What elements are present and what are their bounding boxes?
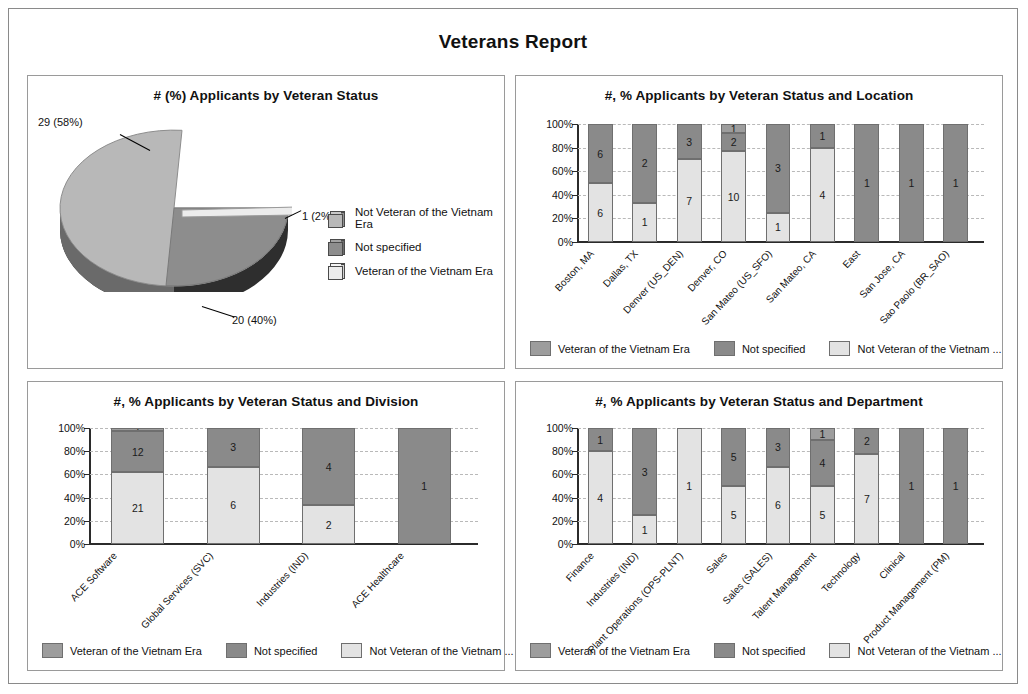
y-axis-tick-label: 60%	[552, 468, 573, 480]
bar-segment[interactable]: 1	[899, 124, 924, 242]
bar-column[interactable]: 24Industries (IND)	[302, 428, 355, 544]
legend-location: Veteran of the Vietnam EraNot specifiedN…	[530, 341, 1020, 356]
bar-segment[interactable]: 5	[721, 486, 746, 544]
bar-segment[interactable]: 1	[899, 428, 924, 544]
bar-segment[interactable]: 1	[766, 213, 791, 243]
bar-column[interactable]: 21121ACE Software	[111, 428, 164, 544]
bar-segment[interactable]: 6	[207, 467, 260, 544]
bar-column[interactable]: 55Sales	[721, 428, 746, 544]
bar-segment[interactable]: 6	[766, 467, 791, 544]
legend-label-veteran: Veteran of the Vietnam Era	[70, 645, 202, 657]
x-axis-tick-label: Dallas, TX	[601, 248, 640, 289]
bar-segment[interactable]: 5	[721, 428, 746, 486]
legend-item-not-specified[interactable]: Not specified	[226, 643, 318, 658]
bar-segment[interactable]: 1	[854, 124, 879, 242]
bar-segment[interactable]: 3	[207, 428, 260, 467]
bar-column[interactable]: 1021Denver, CO	[721, 124, 746, 242]
bar-segment[interactable]: 4	[810, 440, 835, 486]
plot-area-division[interactable]: 0%20%40%60%80%100%21121ACE Software63Glo…	[90, 428, 472, 544]
bar-segment[interactable]: 4	[810, 148, 835, 242]
y-axis-tick-label: 60%	[64, 468, 85, 480]
bar-segment[interactable]: 1	[943, 428, 968, 544]
bar-segment[interactable]: 6	[588, 183, 613, 242]
bar-segment[interactable]: 1	[632, 515, 657, 544]
bar-segment[interactable]: 3	[677, 124, 702, 159]
bar-column[interactable]: 72Technology	[854, 428, 879, 544]
bar-segment[interactable]: 1	[111, 428, 164, 431]
bar-segment[interactable]: 7	[677, 159, 702, 242]
legend-swatch-non-veteran	[829, 643, 850, 658]
bar-segment[interactable]: 4	[588, 451, 613, 544]
chart-title-pie: # (%) Applicants by Veteran Status	[28, 88, 504, 103]
bar-column[interactable]: 73Denver (US_DEN)	[677, 124, 702, 242]
bar-segment[interactable]: 1	[632, 203, 657, 242]
bar-segment[interactable]: 3	[766, 428, 791, 467]
bar-segment[interactable]: 1	[810, 428, 835, 440]
bar-segment[interactable]: 7	[854, 454, 879, 544]
bar-segment[interactable]: 5	[810, 486, 835, 544]
bar-segment[interactable]: 2	[302, 505, 355, 544]
bar-segment[interactable]: 6	[588, 124, 613, 183]
bar-segment[interactable]: 3	[766, 124, 791, 213]
y-axis	[577, 428, 579, 544]
y-axis-tick-label: 0%	[70, 538, 85, 550]
bar-segment[interactable]: 1	[721, 124, 746, 133]
legend-division: Veteran of the Vietnam EraNot specifiedN…	[42, 643, 532, 658]
bar-segment[interactable]: 1	[677, 428, 702, 544]
legend-swatch-cube-icon	[328, 239, 345, 254]
panel-applicants-by-department: #, % Applicants by Veteran Status and De…	[515, 381, 1003, 671]
legend-item-not-specified[interactable]: Not specified	[714, 643, 806, 658]
bar-column[interactable]: 41Finance	[588, 428, 613, 544]
bar-column[interactable]: 66Boston, MA	[588, 124, 613, 242]
bar-column[interactable]: 1Plant Operations (OPS-PLNT)	[677, 428, 702, 544]
bar-column[interactable]: 1Clinical	[899, 428, 924, 544]
bar-column[interactable]: 12Dallas, TX	[632, 124, 657, 242]
legend-swatch-not-specified	[226, 643, 247, 658]
bar-column[interactable]: 63Sales (SALES)	[766, 428, 791, 544]
pie-legend-item-veteran[interactable]: Veteran of the Vietnam Era	[328, 263, 504, 278]
plot-area-department[interactable]: 0%20%40%60%80%100%41Finance13Industries …	[578, 428, 978, 544]
legend-item-veteran[interactable]: Veteran of the Vietnam Era	[530, 643, 690, 658]
legend-department: Veteran of the Vietnam EraNot specifiedN…	[530, 643, 1020, 658]
bar-segment[interactable]: 1	[810, 124, 835, 148]
legend-item-veteran[interactable]: Veteran of the Vietnam Era	[42, 643, 202, 658]
bar-segment[interactable]: 2	[721, 133, 746, 151]
plot-area-location[interactable]: 0%20%40%60%80%100%66Boston, MA12Dallas, …	[578, 124, 978, 242]
legend-swatch-veteran	[530, 643, 551, 658]
bar-segment[interactable]: 10	[721, 151, 746, 242]
bar-column[interactable]: 1Sao Paolo (BR_SAO)	[943, 124, 968, 242]
legend-item-not-specified[interactable]: Not specified	[714, 341, 806, 356]
pie-legend-label-not-specified: Not specified	[355, 241, 421, 253]
pie-legend-item-not-veteran[interactable]: Not Veteran of the Vietnam Era	[328, 206, 504, 230]
page-title: Veterans Report	[9, 31, 1017, 53]
bar-column[interactable]: 1East	[854, 124, 879, 242]
bar-segment[interactable]: 21	[111, 472, 164, 544]
pie-legend-label-veteran: Veteran of the Vietnam Era	[355, 265, 493, 277]
bar-segment[interactable]: 1	[588, 428, 613, 451]
bar-segment[interactable]: 2	[632, 124, 657, 203]
x-axis-tick-label: Technology	[820, 550, 863, 595]
bar-segment[interactable]: 1	[398, 428, 451, 544]
bar-column[interactable]: 13San Mateo (US_SFO)	[766, 124, 791, 242]
bar-column[interactable]: 13Industries (IND)	[632, 428, 657, 544]
legend-item-veteran[interactable]: Veteran of the Vietnam Era	[530, 341, 690, 356]
bar-column[interactable]: 1ACE Healthcare	[398, 428, 451, 544]
pie-legend-item-not-specified[interactable]: Not specified	[328, 239, 504, 254]
pie-chart[interactable]: 29 (58%) 20 (40%) 1 (2%)	[56, 124, 306, 339]
legend-swatch-not-specified	[714, 341, 735, 356]
legend-item-non-veteran[interactable]: Not Veteran of the Vietnam ...	[829, 643, 1001, 658]
bar-column[interactable]: 1San Jose, CA	[899, 124, 924, 242]
bar-segment[interactable]: 3	[632, 428, 657, 515]
bar-column[interactable]: 541Talent Management	[810, 428, 835, 544]
bar-segment[interactable]: 2	[854, 428, 879, 454]
bar-segment[interactable]: 4	[302, 428, 355, 505]
legend-item-non-veteran[interactable]: Not Veteran of the Vietnam ...	[341, 643, 513, 658]
bar-segment[interactable]: 1	[943, 124, 968, 242]
chart-title-location: #, % Applicants by Veteran Status and Lo…	[516, 88, 1002, 103]
bar-segment[interactable]: 12	[111, 431, 164, 472]
pie-graphic	[56, 124, 292, 292]
bar-column[interactable]: 63Global Services (SVC)	[207, 428, 260, 544]
legend-item-non-veteran[interactable]: Not Veteran of the Vietnam ...	[829, 341, 1001, 356]
bar-column[interactable]: 1Product Management (PM)	[943, 428, 968, 544]
bar-column[interactable]: 41San Mateo, CA	[810, 124, 835, 242]
